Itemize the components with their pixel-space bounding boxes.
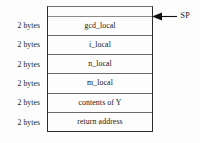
stack-slot-return-address: return address: [48, 113, 152, 131]
size-label: 2 bytes: [0, 74, 44, 93]
size-label: 2 bytes: [0, 16, 44, 35]
size-label: 2 bytes: [0, 35, 44, 54]
stack-slot-contents-of-y: contents of Y: [48, 94, 152, 113]
stack-pointer-annotation: SP: [152, 11, 190, 22]
size-label-column: 2 bytes 2 bytes 2 bytes 2 bytes 2 bytes …: [0, 16, 44, 132]
stack-box: gcd_local i_local n_local m_local conten…: [47, 6, 153, 132]
stack-slot-gcd-local: gcd_local: [48, 17, 152, 36]
stack-pointer-label: SP: [181, 12, 190, 20]
size-label: 2 bytes: [0, 55, 44, 74]
size-label: 2 bytes: [0, 113, 44, 132]
left-arrow-icon: [152, 12, 178, 21]
size-label: 2 bytes: [0, 93, 44, 112]
stack-slot-n-local: n_local: [48, 55, 152, 74]
stack-slot-m-local: m_local: [48, 74, 152, 93]
stack-slot-i-local: i_local: [48, 36, 152, 55]
stack-slot-list: gcd_local i_local n_local m_local conten…: [48, 17, 152, 132]
stack-top-empty-strip: [48, 7, 152, 17]
stack-frame-diagram: 2 bytes 2 bytes 2 bytes 2 bytes 2 bytes …: [0, 0, 200, 143]
